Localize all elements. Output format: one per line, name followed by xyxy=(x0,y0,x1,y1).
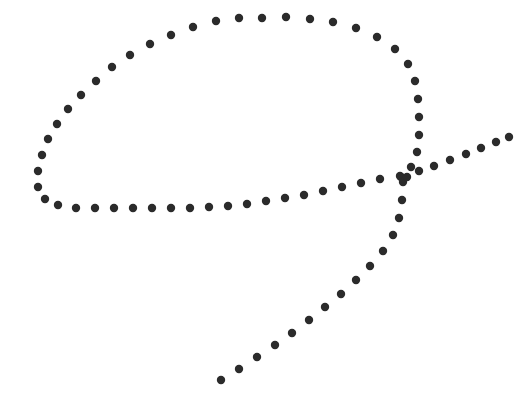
dot-marker xyxy=(77,91,85,99)
dot-marker xyxy=(167,204,175,212)
dot-marker xyxy=(38,151,46,159)
dot-marker xyxy=(205,203,213,211)
dot-marker xyxy=(337,290,345,298)
dot-marker xyxy=(64,105,72,113)
dot-marker xyxy=(414,95,422,103)
dot-marker xyxy=(430,162,438,170)
dot-marker xyxy=(189,23,197,31)
dot-marker xyxy=(217,376,225,384)
dot-marker xyxy=(352,276,360,284)
dot-marker xyxy=(92,77,100,85)
dot-marker xyxy=(41,195,49,203)
dot-marker xyxy=(411,77,419,85)
dot-marker xyxy=(146,40,154,48)
dot-marker xyxy=(282,13,290,21)
dot-marker xyxy=(167,31,175,39)
dot-marker xyxy=(243,200,251,208)
dot-marker xyxy=(281,194,289,202)
dot-marker xyxy=(413,148,421,156)
dot-marker xyxy=(338,183,346,191)
dot-marker xyxy=(352,24,360,32)
dot-marker xyxy=(366,262,374,270)
dot-marker xyxy=(305,316,313,324)
dot-marker xyxy=(462,150,470,158)
dot-marker xyxy=(288,329,296,337)
dot-marker xyxy=(212,17,220,25)
dot-marker xyxy=(446,156,454,164)
dot-marker xyxy=(44,135,52,143)
dot-marker xyxy=(253,353,261,361)
dot-marker xyxy=(395,214,403,222)
dot-marker xyxy=(415,167,423,175)
dot-marker xyxy=(357,179,365,187)
dot-marker xyxy=(108,63,116,71)
dot-marker xyxy=(415,131,423,139)
dot-marker xyxy=(53,120,61,128)
dot-marker xyxy=(34,183,42,191)
dot-marker xyxy=(404,60,412,68)
dot-marker xyxy=(379,247,387,255)
dot-marker xyxy=(389,231,397,239)
canvas-background xyxy=(0,0,519,407)
dot-marker xyxy=(129,204,137,212)
drawing-canvas xyxy=(0,0,519,407)
dot-marker xyxy=(258,14,266,22)
dot-marker xyxy=(415,113,423,121)
dot-marker xyxy=(235,14,243,22)
dot-marker xyxy=(148,204,156,212)
dot-marker xyxy=(492,138,500,146)
dot-marker xyxy=(91,204,99,212)
dot-marker xyxy=(321,303,329,311)
dot-marker xyxy=(373,33,381,41)
dot-marker xyxy=(110,204,118,212)
dot-marker xyxy=(407,163,415,171)
dot-marker xyxy=(54,201,62,209)
dot-marker xyxy=(271,341,279,349)
dot-marker xyxy=(376,175,384,183)
dot-marker xyxy=(235,365,243,373)
dot-marker xyxy=(126,51,134,59)
dot-marker xyxy=(391,45,399,53)
dot-marker xyxy=(505,133,513,141)
dot-marker xyxy=(477,144,485,152)
dot-marker xyxy=(306,15,314,23)
dotted-stroke-svg xyxy=(0,0,519,407)
dot-marker xyxy=(262,197,270,205)
dot-marker xyxy=(186,204,194,212)
dot-marker xyxy=(319,187,327,195)
dot-marker xyxy=(34,167,42,175)
dot-marker xyxy=(224,202,232,210)
dot-marker xyxy=(300,191,308,199)
dot-marker xyxy=(72,204,80,212)
dot-marker xyxy=(403,173,411,181)
dot-marker xyxy=(398,196,406,204)
dot-marker xyxy=(329,18,337,26)
